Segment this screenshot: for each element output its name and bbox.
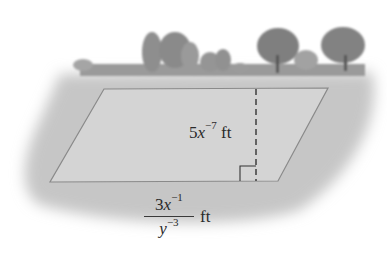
base-unit: ft: [200, 208, 210, 225]
figure: 5x−7 ft 3x−1 y−3 ft: [0, 0, 387, 266]
fraction-denominator: y−3: [142, 217, 196, 237]
base-label-fraction: 3x−1 y−3: [142, 196, 196, 237]
height-label: 5x−7 ft: [189, 124, 231, 141]
height-coef: 5: [189, 123, 198, 142]
height-unit: ft: [221, 123, 231, 142]
height-var: x: [198, 123, 206, 142]
tree-line: [73, 27, 365, 76]
fraction-numerator: 3x−1: [142, 196, 196, 216]
height-exp: −7: [205, 119, 217, 131]
